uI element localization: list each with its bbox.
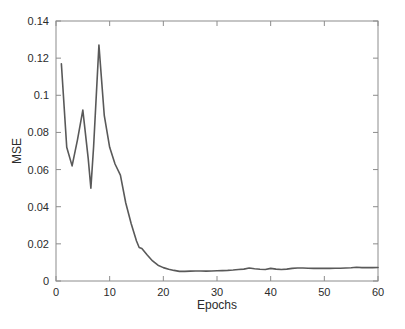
x-tick-label: 40 [265, 286, 277, 298]
y-tick-label: 0.12 [28, 52, 49, 64]
y-tick-label: 0.04 [28, 201, 49, 213]
x-tick-label: 30 [211, 286, 223, 298]
y-tick-label: 0.1 [34, 89, 49, 101]
y-axis-title: MSE [10, 138, 24, 164]
y-tick-label: 0.14 [28, 15, 49, 27]
figure-background [0, 0, 405, 329]
x-axis-title: Epochs [197, 298, 237, 312]
mse-line-chart: 00.020.040.060.080.10.120.14 01020304050… [0, 0, 405, 329]
y-tick-label: 0 [43, 275, 49, 287]
x-tick-label: 10 [104, 286, 116, 298]
x-tick-label: 0 [53, 286, 59, 298]
x-tick-label: 60 [372, 286, 384, 298]
y-tick-label: 0.02 [28, 238, 49, 250]
x-tick-label: 50 [318, 286, 330, 298]
chart-figure: 00.020.040.060.080.10.120.14 01020304050… [0, 0, 405, 329]
x-tick-label: 20 [157, 286, 169, 298]
y-tick-label: 0.08 [28, 126, 49, 138]
y-tick-label: 0.06 [28, 164, 49, 176]
